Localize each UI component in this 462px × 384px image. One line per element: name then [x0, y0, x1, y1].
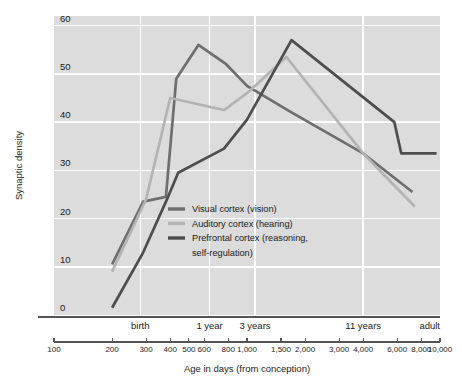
y-axis-tick-label: 50 [60, 61, 71, 72]
y-axis-tick-label: 20 [60, 206, 71, 217]
x-axis-tick-label: 100 [47, 345, 61, 354]
era-axis-label: adult [419, 320, 440, 331]
legend-label: Prefrontal cortex (reasoning, [192, 233, 308, 243]
x-axis-tick-label: 200 [105, 345, 119, 354]
x-axis-tick-label: 2,000 [295, 345, 316, 354]
synaptic-density-chart-figure: 0102030405060 birth1 year3 years11 years… [0, 0, 462, 384]
x-axis-tick-label: 4,000 [353, 345, 374, 354]
x-axis-tick-label: 1,000 [237, 345, 258, 354]
y-axis-title: Synaptic density [13, 131, 24, 200]
chart-canvas: 0102030405060 birth1 year3 years11 years… [0, 0, 462, 384]
x-axis-tick-label: 500 [182, 345, 196, 354]
y-axis-tick-label: 30 [60, 157, 71, 168]
era-axis-label: 3 years [239, 320, 270, 331]
y-axis-tick-label: 60 [60, 13, 71, 24]
y-axis-tick-label: 0 [60, 302, 65, 313]
era-axis-label: birth [131, 320, 149, 331]
x-axis-tick-label: 600 [198, 345, 212, 354]
era-axis-group: birth1 year3 years11 yearsadult [38, 317, 440, 331]
y-axis-tick-label: 10 [60, 254, 71, 265]
legend-label: self-regulation) [192, 248, 253, 258]
x-axis-tick-label: 3,000 [329, 345, 350, 354]
x-axis-tick-label: 800 [222, 345, 236, 354]
x-axis-title: Age in days (from conception) [184, 363, 310, 374]
x-axis-tick-label: 1,500 [271, 345, 292, 354]
log-axis-group: 1002003004005006008001,0001,5002,0003,00… [47, 338, 452, 354]
legend-label: Visual cortex (vision) [192, 204, 277, 214]
x-axis-tick-label: 400 [164, 345, 178, 354]
era-axis-label: 11 years [345, 320, 381, 331]
x-axis-tick-label: 6,000 [387, 345, 408, 354]
legend-label: Auditory cortex (hearing) [192, 219, 293, 229]
x-axis-tick-label: 300 [139, 345, 153, 354]
x-axis-tick-label: 10,000 [428, 345, 453, 354]
era-axis-label: 1 year [196, 320, 222, 331]
y-axis-tick-label: 40 [60, 109, 71, 120]
